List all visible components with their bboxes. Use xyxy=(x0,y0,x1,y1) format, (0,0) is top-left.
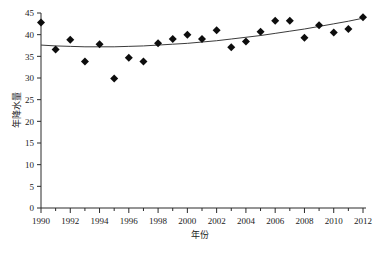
data-point-marker xyxy=(271,17,279,25)
y-tick-label: 10 xyxy=(25,160,35,170)
y-tick-label: 15 xyxy=(25,138,35,148)
y-tick-label: 20 xyxy=(25,117,35,127)
x-tick-label: 2008 xyxy=(295,216,314,226)
y-tick-label: 0 xyxy=(30,203,35,213)
data-point-marker xyxy=(37,19,45,27)
x-axis-title: 年份 xyxy=(191,229,209,240)
x-tick-label: 2006 xyxy=(266,216,285,226)
data-point-marker xyxy=(257,28,265,36)
data-point-marker xyxy=(227,43,235,51)
data-point-marker xyxy=(154,39,162,47)
x-axis-ticks xyxy=(41,208,363,213)
data-point-marker xyxy=(81,58,89,66)
y-tick-label: 35 xyxy=(25,52,35,62)
x-tick-label: 2012 xyxy=(354,216,372,226)
y-axis-ticks xyxy=(37,13,41,208)
x-axis-tick-labels: 1990199219941996199820002002200420062008… xyxy=(32,216,372,226)
data-point-marker xyxy=(315,21,323,29)
data-point-marker xyxy=(125,54,133,62)
data-point-marker xyxy=(139,58,147,66)
data-point-marker xyxy=(286,17,294,25)
y-tick-label: 30 xyxy=(25,73,35,83)
x-tick-label: 2002 xyxy=(208,216,226,226)
x-tick-label: 1990 xyxy=(32,216,51,226)
data-point-marker xyxy=(169,35,177,43)
chart-canvas: 051015202530354045 199019921994199619982… xyxy=(0,0,379,254)
y-tick-label: 25 xyxy=(25,95,35,105)
y-tick-label: 45 xyxy=(25,8,35,18)
data-point-marker xyxy=(66,36,74,44)
x-tick-label: 1992 xyxy=(61,216,79,226)
x-tick-label: 1998 xyxy=(149,216,168,226)
data-point-marker xyxy=(359,13,367,21)
x-tick-label: 2010 xyxy=(325,216,344,226)
data-point-marker xyxy=(213,26,221,34)
data-point-marker xyxy=(183,31,191,39)
x-tick-label: 2000 xyxy=(178,216,197,226)
y-tick-label: 5 xyxy=(30,182,35,192)
data-point-marker xyxy=(300,34,308,42)
x-tick-label: 1994 xyxy=(91,216,110,226)
x-tick-label: 1996 xyxy=(120,216,139,226)
data-point-marker xyxy=(110,74,118,82)
data-point-marker xyxy=(52,45,60,53)
data-point-marker xyxy=(330,29,338,37)
y-axis-tick-labels: 051015202530354045 xyxy=(25,8,35,213)
y-tick-label: 40 xyxy=(25,30,35,40)
data-point-markers xyxy=(37,13,367,82)
data-point-marker xyxy=(242,38,250,46)
data-point-marker xyxy=(344,25,352,33)
x-tick-label: 2004 xyxy=(237,216,256,226)
precipitation-scatter-chart: 051015202530354045 199019921994199619982… xyxy=(0,0,379,254)
y-axis-title: 年降水量 xyxy=(11,92,22,128)
